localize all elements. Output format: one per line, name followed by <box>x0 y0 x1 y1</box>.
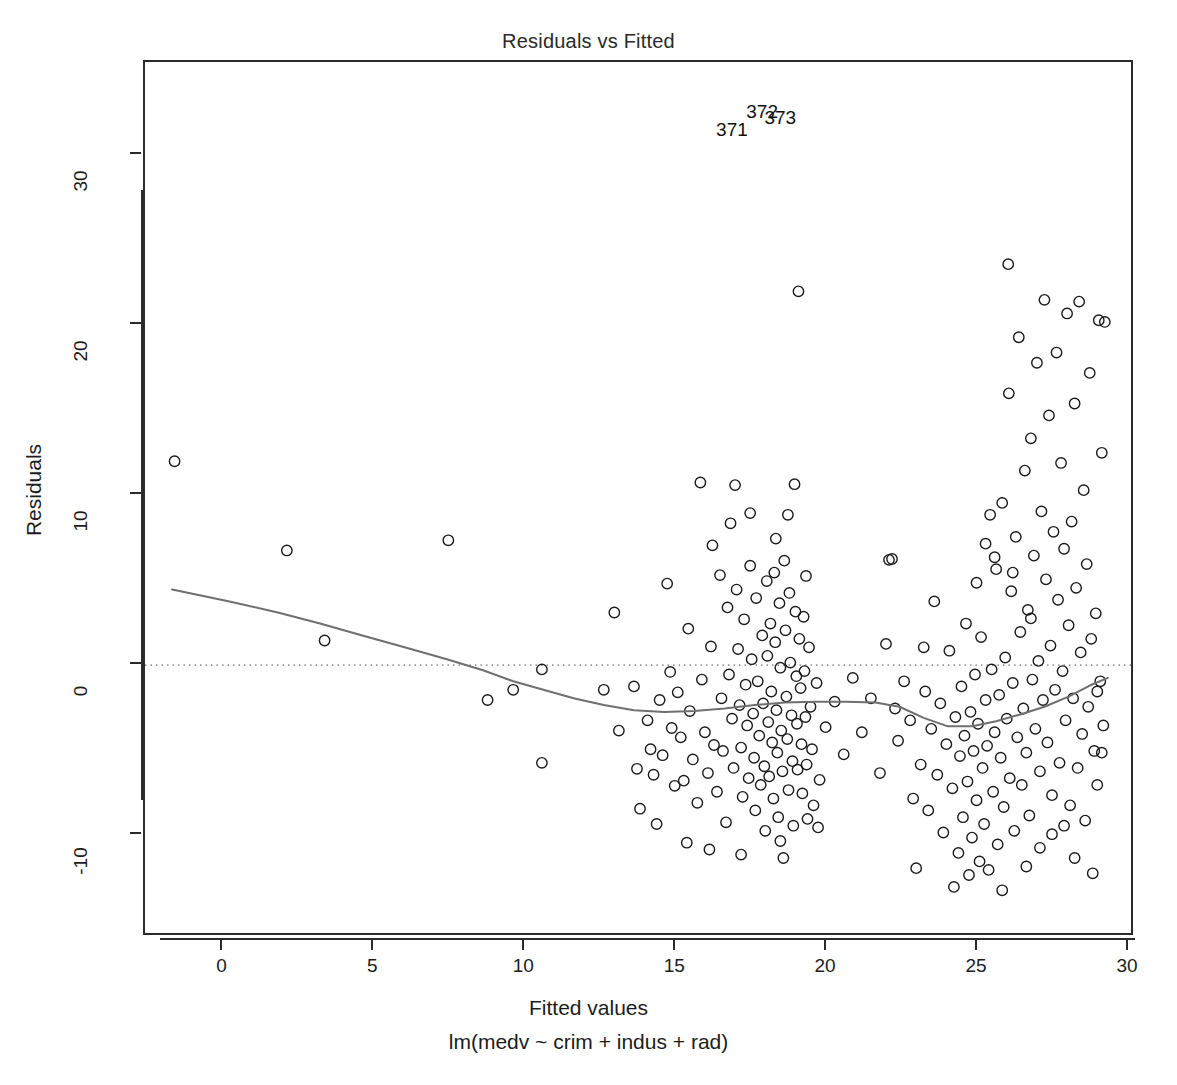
data-point <box>782 734 792 744</box>
data-point <box>1042 737 1052 747</box>
data-point <box>1006 586 1016 596</box>
data-point <box>920 686 930 696</box>
data-point <box>1089 746 1099 756</box>
data-point <box>997 498 1007 508</box>
data-point <box>784 588 794 598</box>
data-point <box>751 593 761 603</box>
data-point <box>1044 410 1054 420</box>
data-point <box>716 693 726 703</box>
data-point <box>1080 815 1090 825</box>
data-point <box>745 508 755 518</box>
data-point <box>1069 398 1079 408</box>
scatter-layer <box>145 62 1131 933</box>
y-axis-tick <box>130 662 141 664</box>
data-point <box>688 754 698 764</box>
data-point <box>1092 780 1102 790</box>
data-point <box>794 634 804 644</box>
x-axis-tick <box>673 939 675 950</box>
data-point <box>1074 296 1084 306</box>
x-axis-tick-label: 30 <box>1097 955 1157 977</box>
data-point <box>1035 843 1045 853</box>
data-point <box>1088 868 1098 878</box>
data-point <box>734 700 744 710</box>
x-axis-tick-label: 10 <box>493 955 553 977</box>
data-point <box>1082 559 1092 569</box>
data-point <box>731 584 741 594</box>
data-point <box>1030 724 1040 734</box>
data-point <box>662 578 672 588</box>
data-point <box>759 761 769 771</box>
data-point <box>775 663 785 673</box>
y-axis-tick-label: 0 <box>70 661 92 721</box>
data-point <box>919 642 929 652</box>
x-axis-tick <box>975 939 977 950</box>
data-point <box>1050 685 1060 695</box>
x-axis-tick-label: 5 <box>342 955 402 977</box>
x-axis-tick-label: 20 <box>795 955 855 977</box>
data-point <box>1097 747 1107 757</box>
data-point <box>958 812 968 822</box>
data-point <box>944 646 954 656</box>
data-point <box>991 564 1001 574</box>
x-axis-tick-label: 0 <box>191 955 251 977</box>
data-point <box>938 827 948 837</box>
data-point <box>1039 295 1049 305</box>
data-point <box>1092 686 1102 696</box>
data-point <box>764 771 774 781</box>
data-point <box>682 838 692 848</box>
data-point <box>997 885 1007 895</box>
data-point <box>1004 388 1014 398</box>
data-point <box>665 667 675 677</box>
data-point <box>742 720 752 730</box>
data-point <box>1000 652 1010 662</box>
data-point <box>1021 747 1031 757</box>
data-point <box>1065 800 1075 810</box>
data-point <box>1003 259 1013 269</box>
data-point <box>797 788 807 798</box>
data-point <box>745 561 755 571</box>
data-point <box>1091 608 1101 618</box>
data-point <box>692 798 702 808</box>
data-point <box>629 681 639 691</box>
data-point <box>932 770 942 780</box>
data-point <box>1017 780 1027 790</box>
data-point <box>1078 485 1088 495</box>
data-point <box>980 538 990 548</box>
data-point <box>923 805 933 815</box>
data-point <box>727 713 737 723</box>
data-point <box>740 679 750 689</box>
data-point <box>666 723 676 733</box>
loess-smoother-line <box>172 590 1108 727</box>
data-point <box>1059 821 1069 831</box>
data-point <box>956 681 966 691</box>
data-point <box>599 685 609 695</box>
data-point <box>733 644 743 654</box>
data-point <box>783 510 793 520</box>
data-point <box>961 618 971 628</box>
data-point <box>893 736 903 746</box>
data-point <box>750 805 760 815</box>
data-point <box>765 618 775 628</box>
data-point <box>712 787 722 797</box>
data-point <box>941 739 951 749</box>
plot-canvas <box>145 62 1131 933</box>
data-point <box>802 814 812 824</box>
data-point <box>968 746 978 756</box>
data-point <box>1047 829 1057 839</box>
data-point <box>1086 634 1096 644</box>
data-point <box>801 759 811 769</box>
data-point <box>1051 347 1061 357</box>
data-point <box>953 848 963 858</box>
data-point <box>994 690 1004 700</box>
data-point <box>1026 433 1036 443</box>
y-axis-line <box>141 190 143 800</box>
data-point <box>964 870 974 880</box>
data-point <box>804 642 814 652</box>
data-point <box>1033 656 1043 666</box>
data-point <box>800 712 810 722</box>
data-point <box>976 632 986 642</box>
data-point <box>282 545 292 555</box>
data-point <box>1060 715 1070 725</box>
data-point <box>970 669 980 679</box>
data-point <box>614 725 624 735</box>
